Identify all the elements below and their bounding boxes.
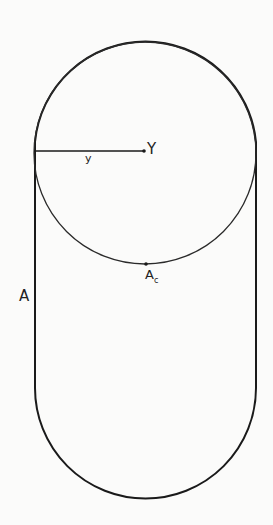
- diagram-canvas: Y y Ac A: [0, 0, 273, 525]
- radius-label: y: [85, 153, 92, 164]
- contact-point-label-sub: c: [154, 276, 158, 285]
- contact-point-label: Ac: [145, 268, 158, 285]
- contact-point-label-main: A: [145, 267, 154, 282]
- contact-point: [144, 262, 148, 266]
- center-point: [142, 149, 146, 153]
- inscribed-circle: [34, 42, 256, 264]
- diagram-figure: [0, 0, 273, 525]
- center-label: Y: [147, 142, 156, 157]
- outline-label: A: [19, 289, 29, 304]
